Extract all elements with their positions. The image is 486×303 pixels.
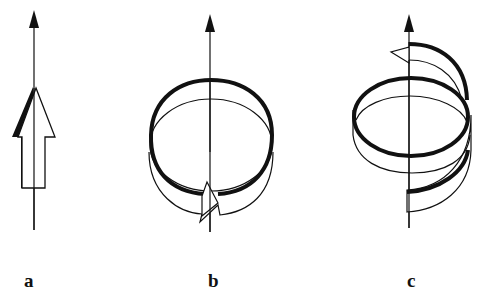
axis-arrowhead-a	[29, 10, 39, 28]
figure-caption-cropped	[0, 296, 486, 303]
arrowhead-c	[391, 42, 409, 63]
panel-label-b: b	[208, 270, 219, 292]
panel-label-c: c	[407, 270, 415, 292]
ribbon-lower-edge-b	[149, 152, 273, 222]
panel-a-diagram	[12, 10, 55, 230]
panel-b-diagram	[149, 14, 273, 232]
axis-arrowhead-b	[205, 14, 215, 32]
vector-arrow-a	[18, 88, 55, 188]
axis-arrowhead-c	[404, 14, 414, 32]
panel-c-diagram	[353, 14, 471, 228]
helix-top-turn-c	[409, 44, 467, 100]
panel-label-a: a	[24, 270, 34, 292]
figure-canvas	[0, 0, 486, 303]
helix-middle-turn-c	[354, 78, 468, 156]
